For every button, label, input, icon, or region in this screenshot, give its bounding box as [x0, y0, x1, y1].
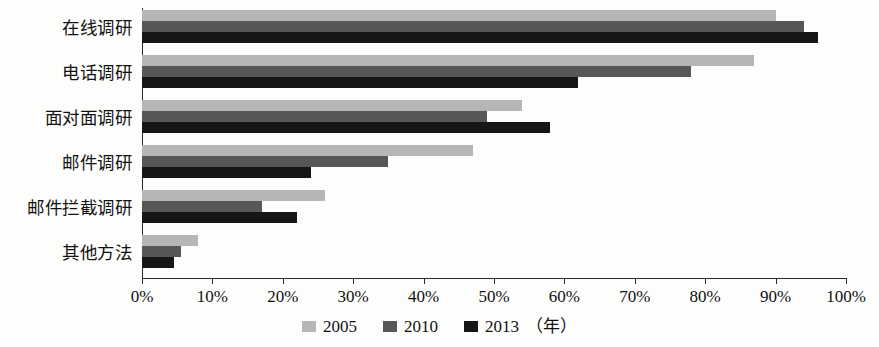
bar	[142, 190, 325, 201]
x-axis-tick-label: 0%	[131, 288, 154, 305]
x-axis-tick-label: 100%	[826, 288, 866, 305]
legend-item-2010[interactable]: 2010	[383, 318, 438, 335]
bar	[142, 235, 198, 246]
bar	[142, 55, 754, 66]
x-axis-tick-label: 20%	[267, 288, 298, 305]
bar	[142, 246, 181, 257]
legend-swatch-icon	[464, 321, 478, 332]
x-axis-tick	[142, 278, 143, 284]
bar	[142, 167, 311, 178]
bar	[142, 21, 804, 32]
survey-methods-bar-chart: 在线调研 电话调研 面对面调研 邮件调研 邮件拦截调研 其他方法 0%10%20…	[0, 0, 879, 347]
category-label: 其他方法	[0, 245, 132, 263]
legend-unit-label: （年）	[526, 318, 577, 335]
category-label: 邮件调研	[0, 155, 132, 173]
category-axis: 在线调研 电话调研 面对面调研 邮件调研 邮件拦截调研 其他方法	[0, 8, 138, 278]
legend-item-2013[interactable]: 2013 （年）	[464, 318, 577, 335]
x-axis-tick	[353, 278, 354, 284]
x-axis-tick	[212, 278, 213, 284]
x-axis-tick	[494, 278, 495, 284]
bar	[142, 10, 776, 21]
x-axis-tick	[635, 278, 636, 284]
bar	[142, 201, 262, 212]
x-axis-tick	[283, 278, 284, 284]
bar	[142, 145, 473, 156]
x-axis-tick	[776, 278, 777, 284]
x-axis-tick-label: 30%	[338, 288, 369, 305]
category-label: 邮件拦截调研	[0, 200, 132, 218]
x-axis-tick-label: 50%	[478, 288, 509, 305]
bar	[142, 156, 388, 167]
x-axis-tick-label: 10%	[197, 288, 228, 305]
bar	[142, 77, 578, 88]
bar	[142, 111, 487, 122]
bar	[142, 66, 691, 77]
x-axis-tick-label: 70%	[619, 288, 650, 305]
legend-swatch-icon	[302, 321, 316, 332]
plot-area: 0%10%20%30%40%50%60%70%80%90%100%	[142, 8, 846, 278]
bar	[142, 257, 174, 268]
legend-label: 2013	[485, 318, 519, 335]
legend-label: 2005	[323, 318, 357, 335]
x-axis-tick-label: 40%	[408, 288, 439, 305]
x-axis-tick	[846, 278, 847, 284]
bar	[142, 212, 297, 223]
category-label: 在线调研	[0, 20, 132, 38]
legend-label: 2010	[404, 318, 438, 335]
legend-swatch-icon	[383, 321, 397, 332]
x-axis-tick-label: 90%	[760, 288, 791, 305]
bar	[142, 32, 818, 43]
x-axis-tick	[424, 278, 425, 284]
x-axis-tick	[564, 278, 565, 284]
bar	[142, 122, 550, 133]
x-axis-tick-label: 60%	[549, 288, 580, 305]
category-label: 面对面调研	[0, 110, 132, 128]
legend: 2005 2010 2013 （年）	[0, 318, 879, 335]
category-label: 电话调研	[0, 65, 132, 83]
x-axis-tick	[705, 278, 706, 284]
x-axis-tick-label: 80%	[690, 288, 721, 305]
bar	[142, 100, 522, 111]
legend-item-2005[interactable]: 2005	[302, 318, 357, 335]
